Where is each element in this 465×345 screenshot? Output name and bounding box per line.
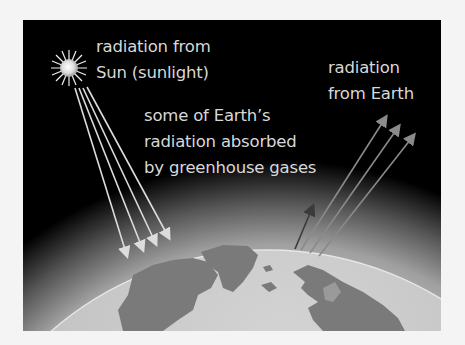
label-line: radiation from xyxy=(96,34,211,60)
label-line: Sun (sunlight) xyxy=(96,60,211,86)
label-earth-radiation: radiation from Earth xyxy=(328,55,414,107)
label-line: some of Earth’s xyxy=(144,103,316,129)
label-line: radiation xyxy=(328,55,414,81)
diagram-frame: radiation from Sun (sunlight) some of Ea… xyxy=(23,20,441,331)
label-sun-radiation: radiation from Sun (sunlight) xyxy=(96,34,211,86)
label-line: by greenhouse gases xyxy=(144,155,316,181)
label-line: radiation absorbed xyxy=(144,129,316,155)
label-absorbed-radiation: some of Earth’s radiation absorbed by gr… xyxy=(144,103,316,181)
label-line: from Earth xyxy=(328,81,414,107)
sun-icon xyxy=(51,50,87,86)
